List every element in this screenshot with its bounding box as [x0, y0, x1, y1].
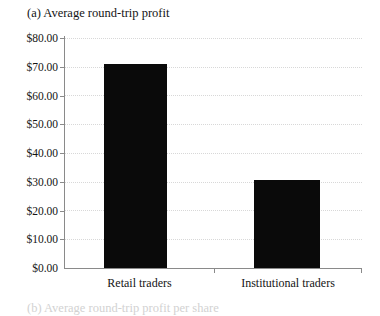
bar-retail-traders	[104, 64, 167, 268]
x-axis-tick	[361, 268, 362, 273]
y-axis-tick-label: $60.00	[2, 91, 58, 103]
y-axis-tick-label: $40.00	[2, 148, 58, 160]
bar-institutional-traders	[254, 180, 320, 268]
y-axis-tick-label: $0.00	[2, 263, 58, 275]
plot-area	[65, 38, 362, 268]
x-axis-category-label-institutional: Institutional traders	[214, 276, 362, 291]
x-axis-tick	[214, 268, 215, 273]
y-axis-labels: $80.00 $70.00 $60.00 $50.00 $40.00 $30.0…	[0, 0, 58, 310]
y-axis-tick-label: $70.00	[2, 62, 58, 74]
y-axis-tick-label: $80.00	[2, 33, 58, 45]
x-axis-category-label-retail: Retail traders	[65, 276, 214, 291]
y-axis-tick-label: $20.00	[2, 206, 58, 218]
gridline	[65, 38, 362, 39]
y-axis-tick-label: $10.00	[2, 234, 58, 246]
y-axis-tick-label: $30.00	[2, 177, 58, 189]
y-axis-tick-label: $50.00	[2, 119, 58, 131]
clipped-next-panel-caption: (b) Average round-trip profit per share	[27, 301, 219, 316]
